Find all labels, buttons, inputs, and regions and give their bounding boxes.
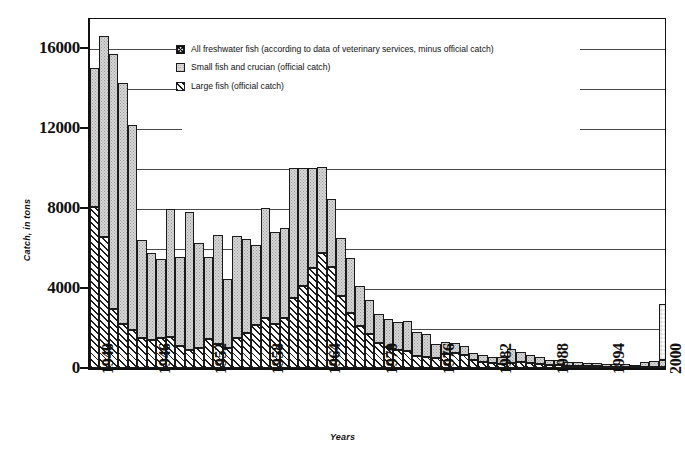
bar-group <box>649 18 658 369</box>
bar-group <box>554 18 563 369</box>
bar-group <box>535 18 544 369</box>
bar-segment-small <box>156 259 165 338</box>
bar-segment-small <box>583 363 592 366</box>
legend-swatch-small-icon <box>176 63 185 72</box>
bar-segment-small <box>545 360 554 365</box>
y-tick-label: 4000 <box>8 279 80 296</box>
bar-segment-small <box>128 125 137 330</box>
bar-group <box>592 18 601 369</box>
bar-segment-small <box>516 352 525 362</box>
bar-segment-small <box>460 346 469 355</box>
bar-segment-small <box>166 209 175 337</box>
y-tick-label: 12000 <box>8 119 80 136</box>
bar-group <box>621 18 630 369</box>
legend-item: Large fish (official catch) <box>176 81 506 92</box>
bar-segment-small <box>422 334 431 357</box>
legend-label: Small fish and crucian (official catch) <box>191 62 506 73</box>
bar-segment-small <box>412 332 421 356</box>
bar-segment-small <box>346 258 355 313</box>
x-tick-label: 1976 <box>440 343 458 374</box>
bar-segment-large <box>403 351 412 368</box>
bar-group <box>526 18 535 369</box>
bar-segment-small <box>185 212 194 350</box>
bar-segment-small <box>630 365 639 367</box>
legend-item: All freshwater fish (according to data o… <box>176 44 506 55</box>
bar-group <box>99 18 108 369</box>
x-tick-label: 1970 <box>383 343 401 374</box>
x-tick-label: 1940 <box>99 343 117 374</box>
legend-label: Large fish (official catch) <box>191 81 506 92</box>
bar-segment-large <box>137 338 146 368</box>
bar-group <box>545 18 554 369</box>
bar-segment-small <box>317 167 326 253</box>
bar-group <box>90 18 99 369</box>
bar-segment-small <box>175 257 184 346</box>
bar-segment-small <box>469 353 478 360</box>
bar-segment-large <box>289 298 298 368</box>
bar-segment-small <box>535 357 544 364</box>
legend-label: All freshwater fish (according to data o… <box>191 44 506 55</box>
bar-group <box>630 18 639 369</box>
bar-group <box>611 18 620 369</box>
x-tick-label: 1958 <box>269 343 287 374</box>
x-axis-title: Years <box>330 432 355 442</box>
bar-segment-large <box>175 346 184 368</box>
bar-segment-large <box>242 333 251 368</box>
bar-segment-small <box>137 240 146 338</box>
bar-segment-large <box>147 340 156 368</box>
bar-segment-small <box>242 239 251 333</box>
bar-segment-small <box>298 168 307 286</box>
bar-segment-small <box>270 232 279 324</box>
bar-segment-large <box>251 325 260 368</box>
bar-group <box>516 18 525 369</box>
bar-segment-small <box>223 279 232 348</box>
bar-segment-small <box>649 361 658 367</box>
bar-segment-small <box>355 286 364 326</box>
bar-segment-small <box>99 36 108 237</box>
bar-segment-small <box>232 236 241 338</box>
y-tick-label: 0 <box>8 359 80 376</box>
x-tick-label: 1964 <box>326 343 344 374</box>
legend-swatch-large-icon <box>176 82 185 91</box>
x-tick-label: 1988 <box>554 343 572 374</box>
bar-segment-large <box>412 356 421 368</box>
bar-segment-small <box>289 168 298 298</box>
bar-segment-small <box>403 321 412 351</box>
bar-segment-large <box>232 338 241 368</box>
bar-segment-large <box>422 357 431 368</box>
chart-legend: All freshwater fish (according to data o… <box>176 44 506 99</box>
bar-segment-large <box>460 355 469 368</box>
bar-segment-small <box>213 235 222 344</box>
bar-segment-small <box>365 300 374 334</box>
bar-segment-small <box>261 208 270 318</box>
y-axis-tick-labels: 0400080001200016000 <box>0 0 80 452</box>
bar-group <box>109 18 118 369</box>
bar-segment-small <box>147 253 156 340</box>
bar-segment-large <box>365 334 374 368</box>
bar-segment-small <box>118 83 127 324</box>
bar-segment-small <box>336 238 345 296</box>
bar-group <box>156 18 165 369</box>
bar-segment-small <box>478 355 487 362</box>
bar-group <box>128 18 137 369</box>
bar-segment-large <box>469 360 478 368</box>
bar-segment-small <box>659 360 666 367</box>
bar-segment-small <box>526 355 535 363</box>
bar-group <box>659 18 666 369</box>
bar-segment-large <box>298 286 307 368</box>
bar-segment-small <box>280 228 289 318</box>
x-tick-label: 1946 <box>156 343 174 374</box>
x-tick-label: 1994 <box>610 343 628 374</box>
bar-group <box>602 18 611 369</box>
bar-segment-small <box>251 245 260 325</box>
bar-segment-small <box>573 362 582 366</box>
bar-segment-small <box>374 314 383 343</box>
x-tick-label: 1982 <box>497 343 515 374</box>
bar-segment-large <box>185 350 194 368</box>
x-axis-line <box>88 368 666 370</box>
bar-segment-large <box>308 268 317 368</box>
y-tick-label: 8000 <box>8 199 80 216</box>
bar-group <box>583 18 592 369</box>
bar-group <box>640 18 649 369</box>
